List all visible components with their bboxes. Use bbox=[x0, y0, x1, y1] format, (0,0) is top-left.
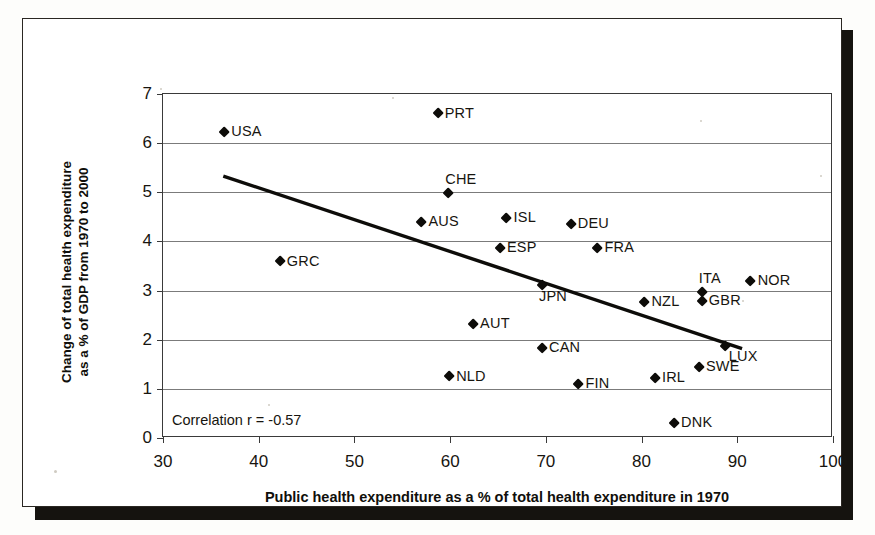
data-point-label: JPN bbox=[539, 288, 567, 304]
scan-speck bbox=[820, 175, 822, 177]
x-tick-label: 70 bbox=[536, 452, 555, 472]
data-point-label: NOR bbox=[758, 272, 791, 288]
data-point-label: GRC bbox=[287, 253, 320, 269]
y-tick-label: 5 bbox=[143, 182, 152, 202]
y-tick-label: 7 bbox=[143, 84, 152, 104]
y-axis-title: Change of total health expenditure as a … bbox=[58, 142, 92, 402]
scan-speck bbox=[700, 120, 702, 122]
data-point-label: ITA bbox=[699, 270, 721, 286]
x-tick-label: 50 bbox=[345, 452, 364, 472]
data-point-label: AUS bbox=[428, 213, 458, 229]
x-tick-label: 80 bbox=[632, 452, 651, 472]
y-axis-title-line1: Change of total health expenditure bbox=[59, 161, 74, 383]
y-tick-label: 0 bbox=[143, 428, 152, 448]
scanned-page-background: 01234567 30405060708090100 USAPRTCHEAUSI… bbox=[0, 0, 875, 535]
data-point-label: USA bbox=[231, 123, 261, 139]
y-tick-label: 1 bbox=[143, 378, 152, 398]
trend-line bbox=[163, 94, 833, 438]
y-axis-title-line2: as a % of GDP from 1970 to 2000 bbox=[76, 167, 91, 376]
scan-speck bbox=[742, 300, 744, 302]
x-tick-label: 40 bbox=[249, 452, 268, 472]
x-tick-label: 60 bbox=[441, 452, 460, 472]
data-point-label: SWE bbox=[706, 358, 740, 374]
scan-speck bbox=[54, 470, 57, 473]
data-point-label: FRA bbox=[605, 239, 635, 255]
scan-speck bbox=[392, 97, 394, 99]
data-point-label: FIN bbox=[585, 375, 609, 391]
y-tick-label: 6 bbox=[143, 133, 152, 153]
x-tick-mark bbox=[833, 436, 834, 443]
data-point-label: PRT bbox=[445, 105, 474, 121]
data-point-label: AUT bbox=[480, 315, 510, 331]
data-point-label: NLD bbox=[456, 368, 486, 384]
paper-sheet: 01234567 30405060708090100 USAPRTCHEAUSI… bbox=[22, 18, 842, 507]
x-tick-label: 100 bbox=[819, 452, 847, 472]
data-point-label: GBR bbox=[709, 292, 741, 308]
correlation-annotation: Correlation r = -0.57 bbox=[172, 412, 301, 428]
data-point-label: CHE bbox=[445, 171, 476, 187]
data-point-label: IRL bbox=[662, 369, 685, 385]
data-point-label: NZL bbox=[651, 293, 679, 309]
data-point-label: ESP bbox=[507, 239, 537, 255]
y-tick-label: 4 bbox=[143, 231, 152, 251]
y-tick-label: 2 bbox=[143, 329, 152, 349]
data-point-label: ISL bbox=[514, 209, 536, 225]
y-tick-label: 3 bbox=[143, 280, 152, 300]
x-axis-title: Public health expenditure as a % of tota… bbox=[162, 489, 832, 505]
scan-speck bbox=[160, 88, 162, 90]
data-point-label: DEU bbox=[578, 215, 609, 231]
chart-figure: 01234567 30405060708090100 USAPRTCHEAUSI… bbox=[31, 27, 831, 496]
scan-speck bbox=[268, 404, 270, 406]
x-tick-label: 90 bbox=[728, 452, 747, 472]
x-tick-label: 30 bbox=[154, 452, 173, 472]
data-point-label: DNK bbox=[681, 414, 712, 430]
plot-area: 01234567 30405060708090100 USAPRTCHEAUSI… bbox=[162, 93, 832, 437]
data-point-label: CAN bbox=[549, 339, 580, 355]
